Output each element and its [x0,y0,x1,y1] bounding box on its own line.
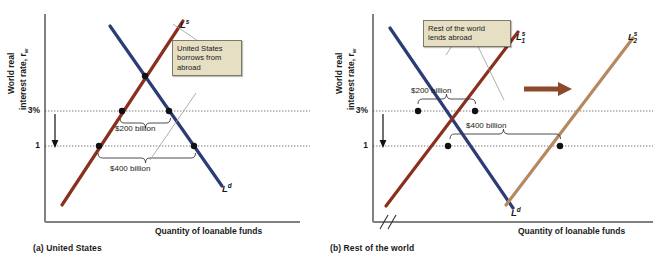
supply-curve-1 [386,32,518,206]
callout-line-2: lends abroad [428,33,506,42]
panel-united-states: World real interest rate, rw 3% 1 Ls Ld … [0,0,328,278]
supply-curve-1-label: Ls1 [516,30,525,44]
brace-400 [98,153,196,163]
y-tick-3pct: 3% [340,105,368,115]
supply-curve-2 [506,38,633,205]
demand-curve-label: Ld [222,182,232,194]
figure-loanable-funds: World real interest rate, rw 3% 1 Ls Ld … [0,0,656,278]
panel-caption: (b) Rest of the world [330,243,414,253]
y-tick-3pct: 3% [12,105,40,115]
brace-label-200: $200 billion [115,124,155,133]
marker-original-equilibrium [445,143,451,149]
callout-line-1: United States [177,44,237,53]
callout-leader [150,93,196,160]
y-axis-label-2: interest rate, rw [346,18,360,140]
marker-supply2-1 [557,143,563,149]
callout-line-1: Rest of the world [428,24,506,33]
panel-caption: (a) United States [33,243,102,253]
x-axis-label: Quantity of loanable funds [155,226,262,236]
callout-line-3: abroad [177,63,237,72]
rate-shift-arrow-icon [52,114,59,148]
shift-arrow-icon [524,82,572,96]
callout-us-borrows: United States borrows from abroad [172,40,242,76]
brace-label-400: $400 billion [110,164,150,173]
panel-a-plot [0,0,328,278]
callout-line-2: borrows from [177,53,237,62]
rate-shift-arrow-icon [380,114,387,148]
supply-curve-2-label: Ls2 [628,30,637,44]
panel-rest-of-world: World real interest rate, rw 3% 1 Ls1 Ls… [328,0,656,278]
marker-demand-3pct [415,108,421,114]
callout-row-lends: Rest of the world lends abroad [423,20,511,47]
supply-curve-label: Ls [180,18,189,30]
x-axis-label: Quantity of loanable funds [518,226,625,236]
demand-curve-label: Ld [511,206,521,218]
y-axis-label-2: interest rate, rw [18,18,32,140]
marker-intersection [142,73,148,79]
marker-supply1-3pct [472,108,478,114]
marker-supply-3pct [119,108,125,114]
brace-label-400: $400 billion [466,121,506,130]
brace-200 [418,94,476,104]
marker-demand-1 [191,143,197,149]
marker-supply-1 [96,143,102,149]
marker-demand-3pct [166,108,172,114]
y-tick-1: 1 [12,140,40,150]
y-tick-1: 1 [340,140,368,150]
brace-label-200: $200 billion [411,86,451,95]
